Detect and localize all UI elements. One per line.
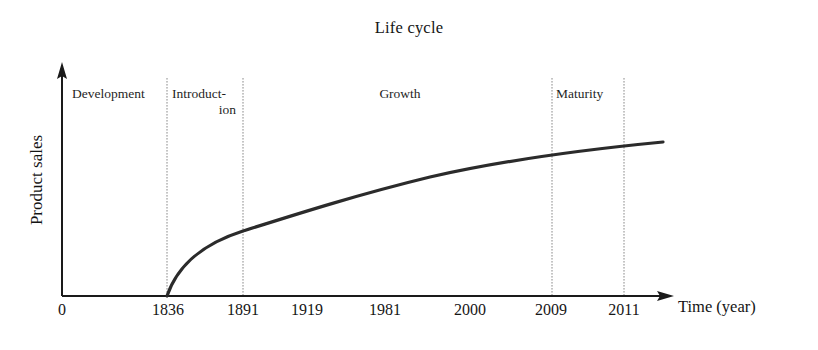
phase-label-maturity: Maturity xyxy=(556,86,622,102)
product-sales-curve xyxy=(167,142,663,296)
x-tick-label-2009: 2009 xyxy=(535,301,567,319)
y-axis xyxy=(57,62,67,296)
phase-label-growth: Growth xyxy=(250,86,550,102)
x-tick-label-1836: 1836 xyxy=(152,301,184,319)
chart-figure: Life cycle Development Introduct-ion Gro… xyxy=(0,0,818,350)
x-tick-label-1891: 1891 xyxy=(227,301,259,319)
x-axis-title: Time (year) xyxy=(678,297,756,317)
phase-label-development: Development xyxy=(72,86,164,102)
x-tick-label-2011: 2011 xyxy=(608,301,639,319)
y-axis-title: Product sales xyxy=(27,110,47,250)
x-axis xyxy=(62,291,674,301)
x-tick-label-0: 0 xyxy=(58,301,66,319)
x-tick-label-1919: 1919 xyxy=(291,301,323,319)
x-tick-label-2000: 2000 xyxy=(454,301,486,319)
phase-label-introduction: Introduct-ion xyxy=(172,86,240,118)
x-tick-label-1981: 1981 xyxy=(369,301,401,319)
